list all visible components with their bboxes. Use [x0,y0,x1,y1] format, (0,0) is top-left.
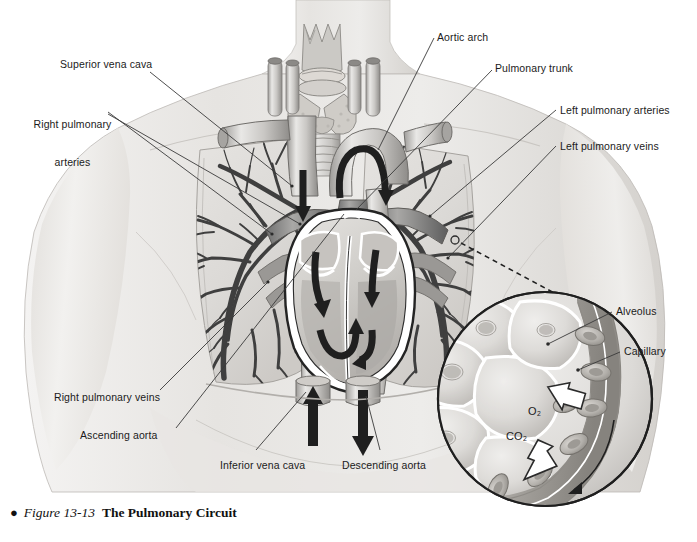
figure-number: Figure 13-13 [24,505,95,521]
label-superior-vena-cava: Superior vena cava [60,58,152,71]
label-ascending-aorta: Ascending aorta [80,429,157,442]
label-left-pulmonary-veins: Left pulmonary veins [560,140,659,153]
figure-caption: ● Figure 13-13 The Pulmonary Circuit [10,505,237,521]
label-pulmonary-trunk: Pulmonary trunk [495,62,573,75]
label-inferior-vena-cava: Inferior vena cava [220,459,305,472]
label-oxygen: O₂ [528,405,541,418]
label-right-pulmonary-veins: Right pulmonary veins [54,391,160,404]
label-right-pulmonary-arteries-line1: Right pulmonary [20,118,125,131]
label-alveolus: Alveolus [616,305,657,318]
label-right-pulmonary-arteries: Right pulmonary arteries [20,93,125,181]
caption-bullet-icon: ● [10,506,18,519]
label-right-pulmonary-arteries-line2: arteries [20,156,125,169]
figure-title: The Pulmonary Circuit [102,505,237,521]
label-aortic-arch: Aortic arch [437,31,488,44]
label-descending-aorta: Descending aorta [342,459,426,472]
heart-frontal-section [285,209,415,392]
label-left-pulmonary-arteries: Left pulmonary arteries [560,104,670,117]
label-capillary: Capillary [624,345,666,358]
label-carbon-dioxide: CO₂ [506,430,527,443]
